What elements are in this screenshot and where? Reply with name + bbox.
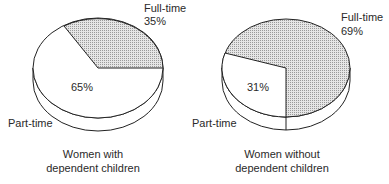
left-parttime-label: Part-time xyxy=(8,117,53,130)
left-fulltime-percent: 35% xyxy=(144,15,166,28)
pie-left xyxy=(33,18,163,131)
right-parttime-percent: 31% xyxy=(247,81,269,94)
right-fulltime-percent: 69% xyxy=(341,25,363,38)
left-caption-line2: dependent children xyxy=(13,161,173,175)
left-fulltime-label: Full-time xyxy=(144,2,186,15)
left-parttime-percent: 65% xyxy=(71,81,93,94)
right-fulltime-label: Full-time xyxy=(341,11,383,24)
right-caption-line1: Women without xyxy=(202,147,362,161)
right-chart-caption: Women without dependent children xyxy=(202,147,362,175)
right-parttime-label: Part-time xyxy=(192,117,237,130)
right-caption-line2: dependent children xyxy=(202,161,362,175)
left-chart-caption: Women with dependent children xyxy=(13,147,173,175)
left-caption-line1: Women with xyxy=(13,147,173,161)
pie-right xyxy=(222,19,350,130)
